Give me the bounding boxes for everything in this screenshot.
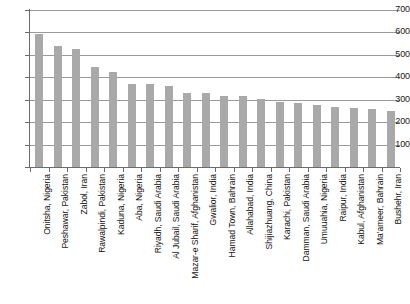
x-tick-mark (197, 168, 198, 172)
bar (294, 103, 302, 167)
bar (239, 96, 247, 167)
x-axis-label: Mazar-e Sharif, Afghanistan (191, 174, 200, 279)
bar (257, 99, 265, 167)
x-axis-label: Kabul, Afghanistan (357, 174, 366, 245)
x-tick-mark (345, 168, 346, 172)
bar (165, 86, 173, 167)
x-tick-mark (67, 168, 68, 172)
x-axis-label-text: Umuuahia, Nigeria (320, 174, 329, 244)
bar (72, 49, 80, 167)
x-axis-label: Onitsha, Nigeria (43, 174, 52, 235)
x-tick-mark (141, 168, 142, 172)
x-axis-label-text: Allahabad, India (246, 174, 255, 235)
x-axis-label-text: Aba, Nigeria (135, 174, 144, 221)
x-axis-label-text: Kabul, Afghanistan (357, 174, 366, 245)
bar (146, 84, 154, 167)
y-tick-mark-700 (25, 10, 29, 11)
x-tick-mark (86, 168, 87, 172)
x-axis-label-text: Kaduna, Nigeria (117, 174, 126, 235)
x-axis-label-text: Zabol, Iran (80, 174, 89, 215)
y-tick-mark-500 (25, 55, 29, 56)
x-axis-label-text: Ma'ameer, Bahrain (376, 174, 385, 245)
x-tick-mark (215, 168, 216, 172)
x-axis-label-text: Riyadh, Saudi Arabia (154, 174, 163, 253)
x-tick-mark (104, 168, 105, 172)
bar (368, 109, 376, 167)
y-tick-mark-0 (25, 167, 29, 168)
x-tick-mark (123, 168, 124, 172)
x-axis-label: Allahabad, India (246, 174, 255, 235)
x-axis-label-text: Onitsha, Nigeria (43, 174, 52, 235)
x-tick-mark (234, 168, 235, 172)
bar (387, 111, 395, 167)
x-tick-mark (271, 168, 272, 172)
bar (183, 93, 191, 167)
bar-series (30, 10, 400, 167)
bar (91, 67, 99, 167)
bar-chart: 100200300400500600700 Onitsha, NigeriaPe… (0, 0, 410, 304)
x-axis-label: Al Jubail, Saudi Arabia (172, 174, 181, 259)
x-axis-label: Bushehr, Iran (394, 174, 403, 224)
x-axis-label-text: Al Jubail, Saudi Arabia (172, 174, 181, 259)
x-tick-mark (382, 168, 383, 172)
x-axis-ticks (30, 168, 400, 172)
x-axis-label-text: Mazar-e Sharif, Afghanistan (191, 174, 200, 279)
x-tick-mark (308, 168, 309, 172)
x-axis-label: Aba, Nigeria (135, 174, 144, 221)
x-axis-labels: Onitsha, NigeriaPeshawar, PakistanZabol,… (30, 174, 400, 302)
x-tick-mark (160, 168, 161, 172)
y-tick-mark-100 (25, 145, 29, 146)
x-axis-label-text: Karachi, Pakistan (283, 174, 292, 240)
x-tick-mark (289, 168, 290, 172)
x-axis-label: Gwalior, India (209, 174, 218, 225)
x-tick-mark (49, 168, 50, 172)
y-tick-mark-600 (25, 32, 29, 33)
bar (202, 93, 210, 167)
x-tick-mark (326, 168, 327, 172)
x-axis-label-text: Damman, Saudi Arabia (302, 174, 311, 261)
x-axis-label-text: Rawalpindi, Pakistan (98, 174, 107, 253)
x-tick-mark (400, 168, 401, 172)
y-tick-mark-200 (25, 122, 29, 123)
bar (109, 72, 117, 167)
x-axis-label: Shijiazhuang, China (265, 174, 274, 250)
x-axis-label-text: Peshawar, Pakistan (61, 174, 70, 249)
x-axis-label: Riyadh, Saudi Arabia (154, 174, 163, 253)
bar (54, 46, 62, 167)
y-tick-mark-300 (25, 100, 29, 101)
x-tick-mark (252, 168, 253, 172)
x-axis-label: Hamad Town, Bahrain (228, 174, 237, 257)
bar (35, 34, 43, 167)
x-tick-mark (363, 168, 364, 172)
x-axis-label: Zabol, Iran (80, 174, 89, 215)
bar (331, 107, 339, 167)
x-axis-label-text: Hamad Town, Bahrain (228, 174, 237, 257)
bar (350, 108, 358, 167)
x-axis-label: Raipur, India (339, 174, 348, 222)
x-axis-label-text: Raipur, India (339, 174, 348, 222)
x-axis-label: Kaduna, Nigeria (117, 174, 126, 235)
x-axis-label: Ma'ameer, Bahrain (376, 174, 385, 245)
x-axis-label: Umuuahia, Nigeria (320, 174, 329, 244)
x-tick-mark (178, 168, 179, 172)
bar (220, 96, 228, 167)
x-axis-label: Damman, Saudi Arabia (302, 174, 311, 261)
x-axis-label-text: Gwalior, India (209, 174, 218, 225)
x-axis-label-text: Shijiazhuang, China (265, 174, 274, 250)
x-axis-label: Karachi, Pakistan (283, 174, 292, 240)
x-axis-label: Peshawar, Pakistan (61, 174, 70, 249)
x-tick-mark (30, 168, 31, 172)
x-axis-label-text: Bushehr, Iran (394, 174, 403, 224)
bar (128, 84, 136, 167)
x-axis-label: Rawalpindi, Pakistan (98, 174, 107, 253)
bar (276, 102, 284, 167)
y-tick-mark-400 (25, 77, 29, 78)
bar (313, 105, 321, 167)
